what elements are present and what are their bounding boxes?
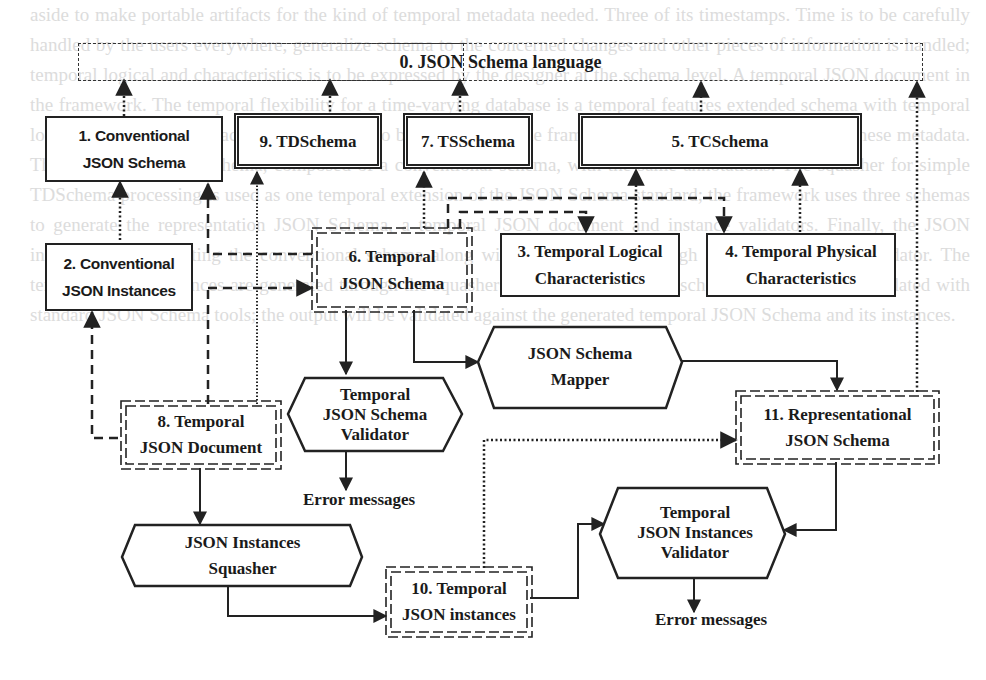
box-5-line1: 5. TCSchema [672, 128, 769, 155]
process-json-instances-squasher: JSON Instances Squasher [140, 528, 345, 584]
dashed-arrow-6-to-1 [208, 184, 312, 254]
box-temporal-json-document: 8. Temporal JSON Document [126, 406, 276, 464]
box-9-line1: 9. TDSchema [260, 128, 357, 155]
tjiv-line1: Temporal [660, 503, 730, 523]
box-8-line2: JSON Document [140, 435, 262, 461]
box-tcschema: 5. TCSchema [578, 113, 862, 169]
arrow-6-to-mapper [414, 310, 478, 362]
box-10-line2: JSON instances [402, 602, 516, 628]
tjsv-line1: Temporal [340, 385, 410, 405]
box-temporal-logical-characteristics: 3. Temporal Logical Characteristics [500, 233, 680, 297]
process-temporal-json-instances-validator: Temporal JSON Instances Validator [615, 494, 775, 572]
box-tsschema: 7. TSSchema [403, 113, 533, 169]
json-schema-language-frame: 0. JSON Schema language [78, 43, 923, 81]
mapper-line2: Mapper [551, 367, 610, 393]
error-messages-schema-validator: Error messages [303, 490, 415, 510]
box-temporal-physical-characteristics: 4. Temporal Physical Characteristics [706, 233, 896, 297]
box-conventional-json-schema: 1. Conventional JSON Schema [45, 116, 223, 182]
box-temporal-json-instances: 10. Temporal JSON instances [391, 572, 527, 632]
tjsv-line2: JSON Schema [323, 405, 427, 425]
box-1-line1: 1. Conventional [79, 122, 190, 149]
process-json-schema-mapper: JSON Schema Mapper [500, 334, 660, 400]
tjiv-line2: JSON Instances [637, 523, 753, 543]
box-1-line2: JSON Schema [83, 149, 186, 176]
arrow-squasher-to-10 [228, 586, 386, 616]
dashed-arrow-6-to-3 [460, 212, 586, 232]
box-temporal-json-schema: 6. Temporal JSON Schema [317, 233, 467, 307]
error-messages-instances-validator: Error messages [655, 610, 767, 630]
box-6-line1: 6. Temporal [349, 243, 436, 270]
tjsv-line3: Validator [341, 425, 409, 445]
box-8-line1: 8. Temporal [158, 409, 245, 435]
box-11-line2: JSON Schema [785, 428, 889, 454]
process-temporal-json-schema-validator: Temporal JSON Schema Validator [300, 382, 450, 448]
box-representational-json-schema: 11. Representational JSON Schema [741, 396, 934, 459]
box-11-line1: 11. Representational [764, 402, 912, 428]
box-7-line1: 7. TSSchema [421, 128, 515, 155]
box-4-line1: 4. Temporal Physical [725, 238, 877, 265]
box-tdschema: 9. TDSchema [234, 113, 382, 169]
json-schema-language-label: 0. JSON Schema language [399, 49, 601, 76]
mapper-line1: JSON Schema [528, 341, 632, 367]
dashed-arrow-8-to-2 [92, 312, 118, 438]
box-10-line1: 10. Temporal [411, 576, 506, 602]
box-4-line2: Characteristics [746, 265, 856, 292]
box-3-line2: Characteristics [535, 265, 645, 292]
squasher-line2: Squasher [208, 556, 276, 582]
box-6-line2: JSON Schema [340, 270, 444, 297]
arrow-10-to-tjiv [530, 524, 604, 598]
box-3-line1: 3. Temporal Logical [518, 238, 663, 265]
arrow-11-to-tjiv [784, 462, 836, 530]
box-2-line1: 2. Conventional [64, 250, 175, 277]
arrow-mapper-to-11 [682, 361, 837, 390]
box-2-line2: JSON Instances [62, 277, 176, 304]
box-conventional-json-instances: 2. Conventional JSON Instances [45, 243, 193, 311]
tjiv-line3: Validator [661, 543, 729, 563]
squasher-line1: JSON Instances [185, 530, 301, 556]
